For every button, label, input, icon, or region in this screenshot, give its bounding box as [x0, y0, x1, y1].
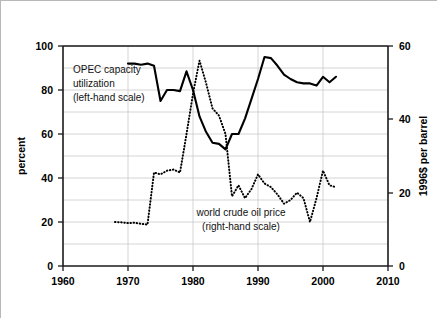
left-tick-100: 100: [35, 40, 53, 52]
x-tick-1990: 1990: [246, 275, 270, 287]
opec-label-line1: OPEC capacity: [73, 64, 141, 75]
chart-background: [1, 1, 437, 318]
left-tick-20: 20: [41, 216, 53, 228]
opec-label-line3: (left-hand scale): [73, 92, 145, 103]
x-tick-1980: 1980: [181, 275, 205, 287]
oil-label-line2: (right-hand scale): [202, 221, 280, 232]
right-tick-0: 0: [399, 260, 405, 272]
right-axis-title: 1996$ per barrel: [417, 116, 429, 197]
oil-label-line1: world crude oil price: [196, 207, 286, 218]
x-tick-1970: 1970: [116, 275, 140, 287]
right-tick-20: 20: [399, 187, 411, 199]
opec-label-line2: utilization: [73, 78, 115, 89]
left-tick-60: 60: [41, 128, 53, 140]
left-tick-80: 80: [41, 84, 53, 96]
x-tick-2010: 2010: [376, 275, 400, 287]
chart-figure: 100 80 60 40 20 0 60 40 20 0 1960 1970 1…: [0, 0, 437, 318]
left-tick-40: 40: [41, 172, 53, 184]
x-tick-1960: 1960: [51, 275, 75, 287]
dual-axis-line-chart: 100 80 60 40 20 0 60 40 20 0 1960 1970 1…: [1, 1, 437, 318]
left-axis-title: percent: [15, 137, 27, 175]
left-tick-0: 0: [47, 260, 53, 272]
right-tick-40: 40: [399, 113, 411, 125]
right-tick-60: 60: [399, 40, 411, 52]
x-tick-2000: 2000: [311, 275, 335, 287]
